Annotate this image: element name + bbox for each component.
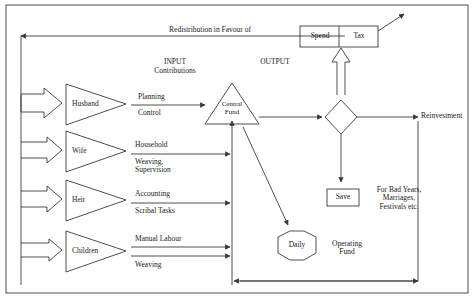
actor-label-heir: Heir bbox=[72, 196, 85, 204]
operating-fund-label: Operating Fund bbox=[320, 240, 374, 257]
contrib-heir-2: Scribal Tasks bbox=[135, 207, 175, 215]
output-header: OUTPUT bbox=[245, 58, 305, 66]
block-arrow-heir bbox=[21, 186, 62, 212]
input-subheader: Contributions bbox=[140, 67, 210, 75]
daily-label: Daily bbox=[281, 241, 313, 249]
contrib-heir-1: Accounting bbox=[135, 190, 170, 198]
block-arrow-up-to-tax bbox=[332, 48, 350, 95]
contrib-husband-2: Control bbox=[138, 109, 161, 117]
tax-label: Tax bbox=[340, 32, 378, 40]
arrow-tax-outflow bbox=[378, 14, 404, 31]
actor-label-wife: Wife bbox=[72, 147, 87, 155]
contrib-children-2: Weaving bbox=[135, 261, 161, 269]
block-arrow-children bbox=[21, 239, 62, 261]
contrib-husband-1: Planning bbox=[138, 93, 165, 101]
contrib-wife-2: Weaving, Supervision bbox=[135, 158, 171, 175]
save-note-label: For Bad Years, Marriages, Festivals etc. bbox=[362, 186, 436, 211]
actor-label-husband: Husband bbox=[72, 100, 99, 108]
spend-label: Spend bbox=[301, 32, 339, 40]
reinvestment-label: Reinvestment bbox=[421, 112, 462, 120]
redistribution-label: Redistribution in Favour of bbox=[105, 26, 315, 34]
contrib-children-1: Manual Labour bbox=[135, 235, 181, 243]
diagram-canvas: Redistribution in Favour of INPUT Contri… bbox=[0, 0, 474, 308]
arrow-fund-to-daily bbox=[243, 127, 288, 225]
save-label: Save bbox=[327, 193, 359, 201]
actor-label-children: Children bbox=[72, 247, 98, 255]
central-fund-label: Central Fund bbox=[207, 101, 257, 117]
block-arrow-husband bbox=[21, 88, 62, 118]
block-arrow-wife bbox=[21, 137, 62, 163]
contrib-wife-1: Household bbox=[135, 141, 168, 149]
decision-diamond bbox=[325, 100, 357, 134]
